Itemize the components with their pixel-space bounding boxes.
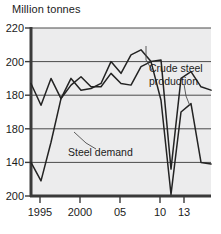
crude-steel-production-label-line2: production	[149, 75, 198, 87]
y-tick-label-180: 180	[6, 89, 24, 101]
x-tick-label-2000: 2000	[68, 206, 92, 218]
y-tick-label-220: 220	[6, 22, 24, 34]
crude-steel-production-label-line1: Crude steel	[149, 62, 203, 74]
y-tick-label-120: 200	[6, 190, 24, 202]
steel-demand-label: Steel demand	[68, 146, 133, 158]
x-tick-label-13: 13	[178, 206, 190, 218]
x-tick-label-10: 10	[154, 206, 166, 218]
x-tick-label-05: 05	[114, 206, 126, 218]
chart-container: Million tonnes 220 200 180	[0, 0, 221, 234]
chart-canvas: 220 200 180 180 140 200 1995 2000 05 10 …	[0, 0, 221, 234]
x-tick-label-1995: 1995	[28, 206, 52, 218]
y-tick-label-140: 140	[6, 156, 24, 168]
y-tick-label-200: 200	[6, 56, 24, 68]
y-tick-label-160: 180	[6, 123, 24, 135]
